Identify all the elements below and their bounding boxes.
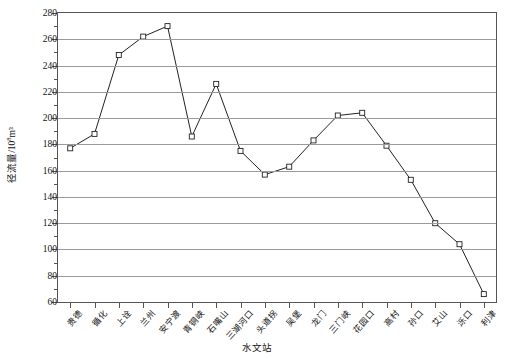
x-tick-mark [411, 303, 412, 308]
gridline [58, 171, 496, 172]
y-tick-label: 240 [27, 61, 57, 71]
x-tick-mark [216, 303, 217, 308]
x-tick-mark [241, 303, 242, 308]
x-tick-mark [387, 303, 388, 308]
data-series-line [58, 13, 496, 302]
x-tick-label: 贵德 [66, 309, 85, 328]
data-point-marker [189, 134, 194, 139]
gridline [58, 92, 496, 93]
runoff-line-chart: 径流量/108m³ 608010012014016018020022024026… [0, 0, 514, 359]
x-tick-label: 吴堡 [285, 309, 304, 328]
gridline [58, 66, 496, 67]
y-axis: 6080100120140160180200220240260280 [20, 12, 57, 303]
x-tick-label: 三门峡 [328, 309, 353, 335]
x-tick-label: 上诠 [115, 309, 134, 328]
data-point-marker [360, 110, 365, 115]
x-tick-label: 青铜峡 [182, 309, 207, 335]
x-tick-mark [119, 303, 120, 308]
x-tick-label: 高村 [383, 309, 402, 328]
x-tick-mark [435, 303, 436, 308]
data-point-marker [214, 81, 219, 86]
x-tick-label: 花园口 [352, 309, 377, 335]
gridline [58, 223, 496, 224]
gridline [58, 39, 496, 40]
gridline [58, 276, 496, 277]
y-tick-label: 120 [27, 218, 57, 228]
data-point-marker [68, 146, 73, 151]
plot-area [57, 12, 497, 303]
y-tick-label: 180 [27, 139, 57, 149]
data-point-marker [311, 138, 316, 143]
x-tick-label: 安宁渡 [158, 309, 183, 335]
x-tick-label: 孙口 [407, 309, 426, 328]
y-tick-label: 100 [27, 244, 57, 254]
y-tick-label: 140 [27, 192, 57, 202]
y-tick-label: 220 [27, 87, 57, 97]
data-point-marker [238, 148, 243, 153]
data-point-marker [116, 53, 121, 58]
data-point-marker [408, 177, 413, 182]
x-tick-mark [192, 303, 193, 308]
x-tick-mark [362, 303, 363, 308]
x-tick-mark [484, 303, 485, 308]
gridline [58, 144, 496, 145]
x-tick-label: 艾山 [431, 309, 450, 328]
x-tick-mark [314, 303, 315, 308]
y-tick-label: 160 [27, 166, 57, 176]
y-tick-label: 260 [27, 34, 57, 44]
x-tick-mark [265, 303, 266, 308]
x-tick-mark [70, 303, 71, 308]
y-tick-label: 200 [27, 113, 57, 123]
x-tick-mark [289, 303, 290, 308]
y-axis-title: 径流量/108m³ [0, 0, 22, 310]
y-tick-label: 60 [27, 297, 57, 307]
data-point-marker [92, 131, 97, 136]
x-tick-label: 循化 [91, 309, 110, 328]
x-tick-mark [95, 303, 96, 308]
x-tick-mark [460, 303, 461, 308]
data-point-marker [165, 24, 170, 29]
y-tick-label: 80 [27, 271, 57, 281]
data-point-marker [287, 164, 292, 169]
data-point-marker [481, 292, 486, 297]
y-tick-label: 280 [27, 8, 57, 18]
x-tick-mark [143, 303, 144, 308]
x-tick-mark [168, 303, 169, 308]
x-tick-label: 利津 [480, 309, 499, 328]
x-tick-label: 泺口 [456, 309, 475, 328]
x-tick-label: 头道拐 [255, 309, 280, 335]
y-axis-title-text: 径流量/108m³ [4, 127, 18, 183]
x-tick-label: 龙门 [310, 309, 329, 328]
gridline [58, 197, 496, 198]
gridline [58, 249, 496, 250]
gridline [58, 118, 496, 119]
x-tick-label: 兰州 [139, 309, 158, 328]
data-point-marker [262, 172, 267, 177]
data-point-marker [457, 242, 462, 247]
x-tick-mark [338, 303, 339, 308]
x-axis-title: 水文站 [0, 340, 514, 354]
